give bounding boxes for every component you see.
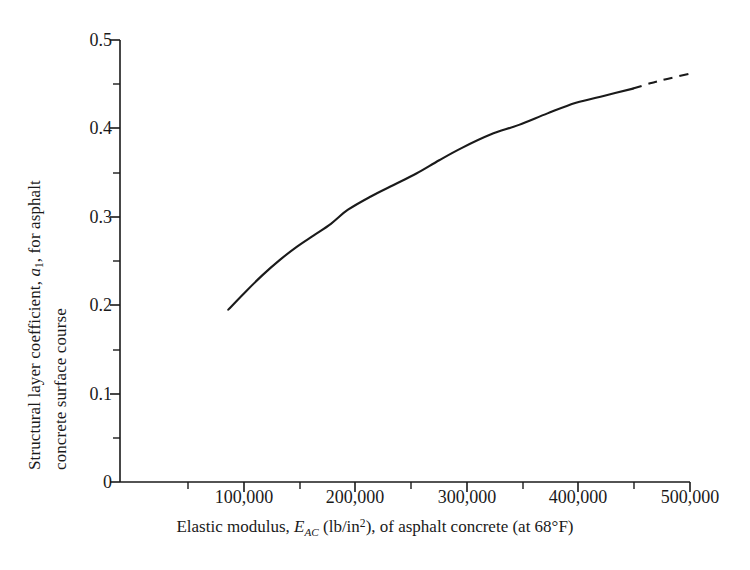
x-tick-label: 500,000 [661,488,720,506]
plot-area [0,0,750,570]
x-axis-title-prefix: Elastic modulus, [176,517,294,536]
x-tick-label: 400,000 [549,488,608,506]
chart-figure: Structural layer coefficient, a1, for as… [0,0,750,570]
data-curve-dashed [633,74,690,89]
x-axis-title-units: (lb/in [319,517,360,536]
x-axis-symbol-e: E [294,517,304,536]
x-axis-symbol-subscript: AC [304,526,318,538]
x-tick-label: 100,000 [215,488,274,506]
data-curve-solid [228,89,633,310]
x-axis-title-suffix: ), of asphalt concrete (at 68°F) [366,517,574,536]
x-axis-title: Elastic modulus, EAC (lb/in2), of asphal… [0,518,750,538]
x-tick-label-group: 100,000 200,000 300,000 400,000 500,000 [0,488,750,518]
x-tick-label: 200,000 [326,488,385,506]
x-tick-label: 300,000 [438,488,497,506]
y-minor-tick-group [113,84,120,438]
